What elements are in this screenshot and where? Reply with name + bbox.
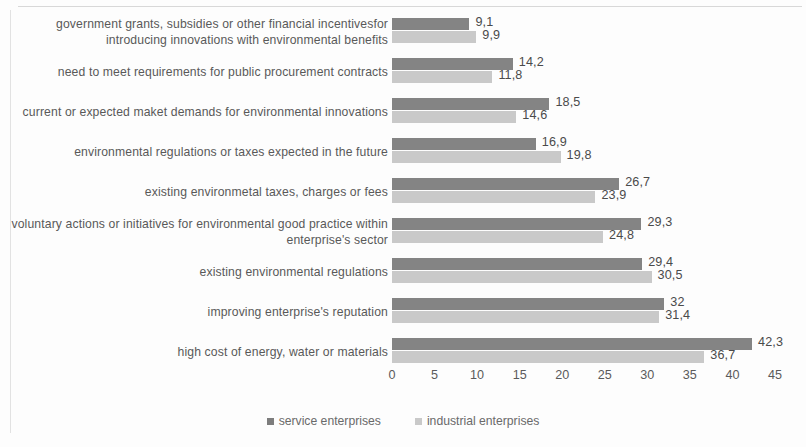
bar-value-label: 18,5: [555, 95, 580, 109]
bar-group: 3231,4: [392, 292, 806, 332]
bar-group: 29,324,8: [392, 212, 806, 252]
category-label: environmental regulations or taxes expec…: [8, 132, 388, 172]
bar-service: [392, 258, 642, 270]
bar-value-label: 24,8: [609, 228, 634, 242]
x-axis-tick: 40: [725, 368, 739, 382]
bar-value-label: 31,4: [665, 308, 690, 322]
bar-value-label: 16,9: [542, 135, 567, 149]
x-axis-tick: 15: [513, 368, 527, 382]
category-label: need to meet requirements for public pro…: [8, 52, 388, 92]
category-label: high cost of energy, water or materials: [8, 332, 388, 372]
bar-value-label: 36,7: [710, 348, 735, 362]
category-label: voluntary actions or initiatives for env…: [8, 212, 388, 252]
chart-row: need to meet requirements for public pro…: [0, 52, 806, 92]
bar-industrial: [392, 191, 595, 203]
bar-industrial: [392, 151, 561, 163]
legend-label: industrial enterprises: [427, 414, 539, 428]
chart-row: existing environmental regulations29,430…: [0, 252, 806, 292]
chart-legend: service enterprisesindustrial enterprise…: [0, 414, 806, 428]
x-axis: 051015202530354045: [392, 368, 806, 390]
bar-group: 9,19,9: [392, 12, 806, 52]
bar-value-label: 14,2: [519, 55, 544, 69]
category-label: government grants, subsidies or other fi…: [8, 12, 388, 52]
x-axis-tick: 5: [431, 368, 438, 382]
bar-industrial: [392, 31, 476, 43]
bar-value-label: 32: [670, 295, 684, 309]
bar-group: 42,336,7: [392, 332, 806, 372]
bar-value-label: 29,3: [647, 215, 672, 229]
bar-industrial: [392, 351, 704, 363]
bar-industrial: [392, 311, 659, 323]
bar-value-label: 26,7: [625, 175, 650, 189]
x-axis-tick: 25: [598, 368, 612, 382]
bar-service: [392, 18, 469, 30]
bar-value-label: 14,6: [522, 108, 547, 122]
bar-group: 18,514,6: [392, 92, 806, 132]
bar-industrial: [392, 71, 492, 83]
chart-row: voluntary actions or initiatives for env…: [0, 212, 806, 252]
bar-value-label: 11,8: [498, 68, 522, 82]
bar-industrial: [392, 231, 603, 243]
x-axis-tick: 30: [640, 368, 654, 382]
category-label: current or expected maket demands for en…: [8, 92, 388, 132]
legend-swatch-icon: [267, 418, 274, 425]
chart-row: existing environmetal taxes, charges or …: [0, 172, 806, 212]
bar-value-label: 9,1: [475, 15, 493, 29]
legend-item[interactable]: service enterprises: [267, 414, 381, 428]
chart-row: current or expected maket demands for en…: [0, 92, 806, 132]
bar-service: [392, 138, 536, 150]
bar-service: [392, 218, 641, 230]
x-axis-tick: 0: [388, 368, 395, 382]
bar-value-label: 30,5: [658, 268, 683, 282]
legend-label: service enterprises: [279, 414, 381, 428]
bar-group: 29,430,5: [392, 252, 806, 292]
bar-industrial: [392, 271, 652, 283]
chart-row: high cost of energy, water or materials4…: [0, 332, 806, 372]
bar-industrial: [392, 111, 516, 123]
x-axis-tick: 10: [470, 368, 484, 382]
chart-row: environmental regulations or taxes expec…: [0, 132, 806, 172]
bar-service: [392, 338, 752, 350]
plot-area: government grants, subsidies or other fi…: [0, 0, 806, 395]
bar-group: 16,919,8: [392, 132, 806, 172]
bar-service: [392, 298, 664, 310]
legend-swatch-icon: [415, 418, 422, 425]
legend-item[interactable]: industrial enterprises: [415, 414, 539, 428]
x-axis-tick: 35: [683, 368, 697, 382]
bar-value-label: 42,3: [758, 335, 783, 349]
category-label: improving enterprise's reputation: [8, 292, 388, 332]
bar-value-label: 9,9: [482, 28, 500, 42]
bar-service: [392, 58, 513, 70]
bar-group: 26,723,9: [392, 172, 806, 212]
chart-row: improving enterprise's reputation3231,4: [0, 292, 806, 332]
bar-service: [392, 178, 619, 190]
category-label: existing environmental regulations: [8, 252, 388, 292]
chart-row: government grants, subsidies or other fi…: [0, 12, 806, 52]
bar-chart-figure: government grants, subsidies or other fi…: [0, 0, 806, 447]
bar-value-label: 23,9: [601, 188, 626, 202]
bar-value-label: 29,4: [648, 255, 673, 269]
bar-value-label: 19,8: [567, 148, 592, 162]
bar-group: 14,211,8: [392, 52, 806, 92]
x-axis-tick: 20: [555, 368, 569, 382]
category-label: existing environmetal taxes, charges or …: [8, 172, 388, 212]
x-axis-tick: 45: [768, 368, 782, 382]
